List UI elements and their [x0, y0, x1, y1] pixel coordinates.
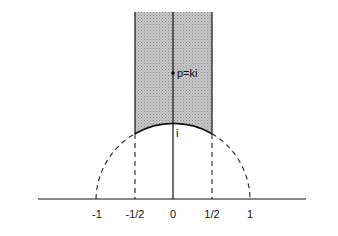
point-p-label: p=ki — [177, 67, 198, 79]
fundamental-domain-diagram: p=ki i -1 -1/2 0 1/2 1 — [0, 0, 338, 236]
tick-neg-half: -1/2 — [126, 208, 145, 220]
tick-neg-one: -1 — [92, 208, 102, 220]
tick-zero: 0 — [170, 208, 176, 220]
tick-pos-half: 1/2 — [204, 208, 219, 220]
unit-circle-arc-dashed-right — [212, 134, 250, 199]
point-p — [171, 71, 175, 75]
unit-circle-arc-dashed-left — [96, 134, 135, 199]
tick-pos-one: 1 — [247, 208, 253, 220]
i-label: i — [176, 127, 178, 139]
